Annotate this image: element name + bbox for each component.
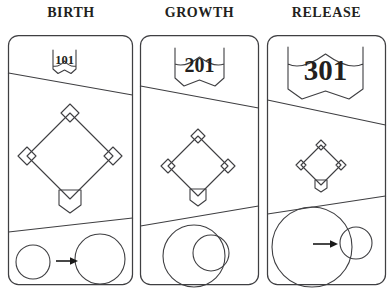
panel-growth[interactable]: 201: [141, 36, 259, 288]
circles-birth: [16, 234, 125, 284]
circle-large-right: [75, 234, 125, 284]
arrow-right-icon: [313, 240, 338, 248]
baseball-diamond-large: [18, 104, 122, 213]
panel-release-divider-bottom: [268, 196, 386, 214]
panel-release-divider-top: [268, 100, 386, 125]
panel-release[interactable]: 301: [268, 36, 386, 288]
panels-illustration: 101: [0, 0, 392, 293]
panel-birth-divider-top: [9, 73, 133, 95]
circle-inner: [193, 235, 229, 271]
circles-growth: [163, 225, 229, 287]
panel-growth-divider-top: [141, 86, 259, 108]
route-shield-201: 201: [175, 48, 224, 86]
panel-birth-divider-bottom: [9, 218, 133, 232]
circle-satellite-small: [340, 227, 372, 259]
diamond-base-path: [168, 136, 228, 196]
panel-birth[interactable]: 101: [9, 36, 133, 285]
home-plate: [315, 180, 327, 192]
route-shield-301-number: 301: [304, 54, 348, 86]
circles-release: [272, 207, 372, 287]
circle-small-left: [16, 245, 50, 279]
diagram-canvas: BIRTH GROWTH RELEASE 101: [0, 0, 392, 293]
diamond-base-path: [301, 145, 341, 185]
baseball-diamond-medium: [161, 129, 235, 206]
diamond-base-path: [27, 113, 113, 199]
route-shield-201-number: 201: [185, 54, 215, 76]
panel-growth-divider-bottom: [141, 206, 259, 226]
home-plate: [59, 190, 81, 213]
route-shield-101: 101: [53, 50, 76, 74]
home-plate: [190, 189, 206, 206]
baseball-diamond-small: [296, 140, 346, 192]
circle-outer: [163, 225, 225, 287]
route-shield-301: 301: [288, 47, 363, 99]
route-shield-101-number: 101: [55, 53, 74, 67]
